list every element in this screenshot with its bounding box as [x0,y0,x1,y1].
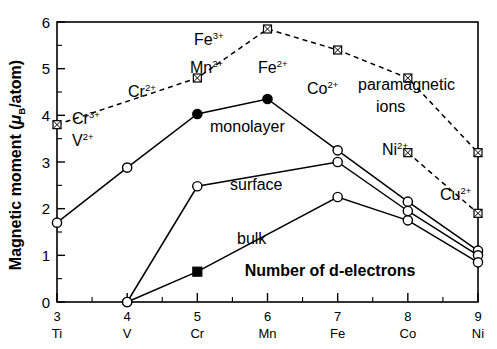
y-tick-label: 2 [42,200,50,217]
ion-label-charge: 2+ [327,79,338,90]
marker-filled-circle [193,109,202,118]
marker-open-circle [333,157,342,166]
y-axis-title-mu: μ [7,114,24,125]
marker-open-circle [403,197,412,206]
x-element-label: Cr [190,326,204,341]
ion-label-charge: 3+ [89,109,100,120]
text-label-lbl-bulk: bulk [237,230,267,247]
magnetic-moment-vs-d-electrons-chart: 0123456 3456789 TiVCrMnFeCoNi Cr3+V2+Cr2… [0,0,497,349]
ion-label-base: Co [307,80,328,97]
marker-open-circle [403,216,412,225]
ion-label-charge: 2+ [145,82,156,93]
ion-label-base: Cr [72,110,90,127]
x-tick-label: 9 [474,309,481,324]
x-axis-title: Number of d-electrons [245,262,416,279]
ion-label-base: Fe [258,59,277,76]
x-tick-label: 5 [194,309,201,324]
ion-label-base: Fe [194,31,213,48]
y-tick-label: 0 [42,294,50,311]
x-tick-label: 4 [124,309,131,324]
x-element-label: Ni [472,326,484,341]
x-element-label: Ti [52,326,62,341]
ion-label-charge: 2+ [460,185,471,196]
marker-open-circle [333,192,342,201]
marker-crossed-square [53,121,61,129]
ion-label-base: Ni [382,141,397,158]
y-axis-title-main: Magnetic moment ( [7,124,24,270]
marker-open-circle [333,146,342,155]
marker-crossed-square [264,25,272,33]
marker-open-circle [473,258,482,267]
x-element-label: Fe [330,326,345,341]
y-tick-label: 6 [42,14,50,31]
x-element-label: Mn [258,326,276,341]
ion-label-charge: 2+ [212,58,223,69]
text-label-lbl-monolayer: monolayer [210,118,285,135]
y-tick-label: 4 [42,107,50,124]
marker-open-circle [123,163,132,172]
y-tick-label: 1 [42,247,50,264]
y-tick-label: 3 [42,154,50,171]
ion-label-base: Mn [190,59,212,76]
marker-crossed-square [334,46,342,54]
x-tick-label: 8 [404,309,411,324]
chart-figure: 0123456 3456789 TiVCrMnFeCoNi Cr3+V2+Cr2… [0,0,497,349]
text-label-lbl-para-2: ions [376,98,405,115]
marker-filled-circle [263,94,272,103]
text-label-lbl-para-1: paramagnetic [358,76,455,93]
x-element-label: Co [400,326,417,341]
ion-label-charge: 2+ [83,131,94,142]
x-tick-label: 7 [334,309,341,324]
y-axis-title-tail: /atom) [7,60,24,108]
marker-crossed-square [474,149,482,157]
ion-label-charge: 2+ [277,58,288,69]
x-element-label: V [123,326,132,341]
marker-open-circle [52,218,61,227]
y-tick-label: 5 [42,60,50,77]
marker-open-circle [403,206,412,215]
marker-open-circle [193,182,202,191]
ion-label-base: V [72,132,83,149]
text-label-lbl-surface: surface [230,176,283,193]
ion-label-charge: 3+ [213,30,224,41]
x-tick-label: 6 [264,309,271,324]
marker-crossed-square [474,209,482,217]
ion-label-charge: 2+ [397,140,408,151]
ion-label-base: Cu [440,186,460,203]
ion-label-base: Cr [128,83,146,100]
marker-open-circle [123,297,132,306]
x-tick-label: 3 [53,309,60,324]
chart-background [0,0,497,349]
marker-filled-square [193,267,202,276]
